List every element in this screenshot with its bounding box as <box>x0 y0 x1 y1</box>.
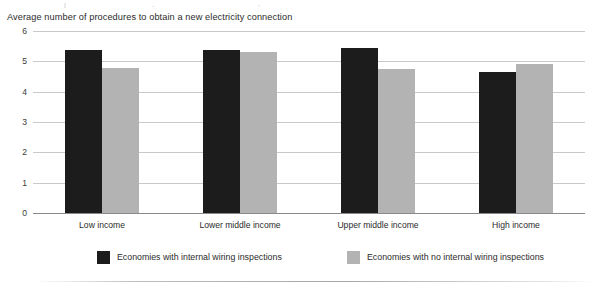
bar-dark-3 <box>479 72 516 213</box>
bar-dark-0 <box>65 50 102 213</box>
category-label-1: Lower middle income <box>199 220 280 231</box>
page-bottom-rule <box>34 281 594 282</box>
chart-legend: Economies with internal wiring inspectio… <box>0 251 606 269</box>
chart-figure: Average number of procedures to obtain a… <box>0 0 606 290</box>
category-label-3: High income <box>492 220 540 231</box>
chart-title: Average number of procedures to obtain a… <box>7 11 292 23</box>
bar-light-1 <box>240 52 277 213</box>
y-axis-tick-6: 6 <box>0 27 27 36</box>
y-axis-tick-4: 4 <box>0 87 27 96</box>
y-axis-tick-3: 3 <box>0 118 27 127</box>
category-label-2: Upper middle income <box>337 220 418 231</box>
x-axis-category-labels: Low incomeLower middle incomeUpper middl… <box>33 220 585 234</box>
legend-swatch-0 <box>97 251 110 264</box>
scan-artifact <box>258 5 260 7</box>
legend-swatch-1 <box>347 251 360 264</box>
bar-light-0 <box>102 68 139 213</box>
gridline-0 <box>33 213 585 214</box>
y-axis-tick-1: 1 <box>0 178 27 187</box>
category-label-0: Low income <box>79 220 125 231</box>
legend-item-1[interactable]: Economies with no internal wiring inspec… <box>347 251 544 264</box>
y-axis-tick-2: 2 <box>0 148 27 157</box>
scan-artifact <box>152 6 155 7</box>
legend-label-0: Economies with internal wiring inspectio… <box>117 251 282 264</box>
bar-dark-1 <box>203 50 240 213</box>
y-axis-tick-0: 0 <box>0 209 27 218</box>
bar-light-3 <box>516 64 553 213</box>
y-axis-tick-5: 5 <box>0 57 27 66</box>
legend-label-1: Economies with no internal wiring inspec… <box>367 251 544 264</box>
legend-item-0[interactable]: Economies with internal wiring inspectio… <box>97 251 282 264</box>
y-axis-labels: 0123456 <box>0 31 27 213</box>
scan-artifact <box>64 3 66 8</box>
bar-light-2 <box>378 69 415 213</box>
bar-series-group <box>33 31 585 213</box>
bar-dark-2 <box>341 48 378 213</box>
